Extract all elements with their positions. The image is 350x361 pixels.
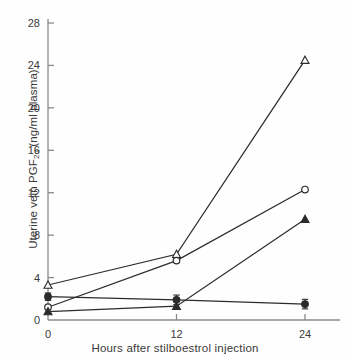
data-point-open-circle: [173, 257, 180, 264]
x-tick-label: 24: [299, 328, 311, 340]
data-point-filled-triangle: [301, 215, 309, 222]
data-point-filled-circle: [302, 301, 309, 308]
x-tick-label: 12: [170, 328, 182, 340]
y-tick-label: 0: [34, 314, 40, 326]
x-axis-label: Hours after stilboestrol injection: [0, 342, 350, 354]
data-point-open-circle: [302, 186, 309, 193]
x-tick-label: 0: [45, 328, 51, 340]
y-tick-label: 28: [28, 17, 40, 29]
figure-panel: 0481216202428 01224 Uterine vein PGF2α (…: [0, 0, 350, 361]
data-point-open-triangle: [173, 250, 181, 257]
y-axis-label-main: Uterine vein PGF: [27, 159, 39, 249]
line-chart-canvas: 0481216202428 01224: [0, 0, 350, 361]
data-point-filled-circle: [45, 293, 52, 300]
y-axis-label-units: (ng/ml plasma): [27, 69, 39, 150]
series-lines: [48, 60, 305, 311]
y-axis-label: Uterine vein PGF2α (ng/ml plasma): [27, 29, 41, 289]
y-axis-label-subscript: 2α: [32, 150, 41, 159]
series-line-open-circle: [48, 190, 305, 308]
x-axis-ticks: 01224: [45, 314, 311, 340]
data-point-filled-circle: [173, 297, 180, 304]
data-point-open-triangle: [301, 56, 309, 63]
